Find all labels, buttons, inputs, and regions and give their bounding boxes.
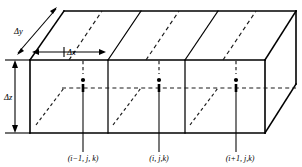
delta-x-label: Δx (66, 47, 76, 57)
label-node-i-plus-1: (i+1, j,k) (226, 154, 255, 163)
hidden-oblique-1 (36, 88, 64, 125)
hidden-oblique-3 (190, 88, 218, 125)
node-dot-i-minus-1 (81, 78, 85, 82)
delta-y-arrowhead-upper (50, 7, 57, 14)
node-dot-i-plus-1 (234, 78, 238, 82)
hidden-oblique-2 (113, 88, 141, 125)
delta-z-label: Δz (3, 92, 13, 102)
node-dot-i (157, 78, 161, 82)
node-group-3 (234, 78, 238, 152)
delta-z-arrowhead-top (12, 60, 18, 68)
figure-root: Δy Δx Δz (i−1, j, k) (i, j,k) (i+1, j,k) (0, 0, 302, 167)
delta-y-label: Δy (13, 26, 23, 36)
delta-z-arrowhead-bottom (12, 125, 18, 133)
front-face (30, 60, 265, 133)
label-node-i-minus-1: (i−1, j, k) (68, 154, 99, 163)
grid-cell-diagram: Δy Δx Δz (i−1, j, k) (i, j,k) (i+1, j,k) (0, 0, 302, 167)
delta-z-dimension: Δz (3, 60, 30, 133)
label-node-i: (i, j,k) (149, 154, 169, 163)
delta-y-arrowhead-lower (17, 48, 24, 55)
node-group-2 (157, 78, 161, 152)
hidden-back-edges (36, 61, 296, 125)
node-group-1 (81, 78, 85, 152)
right-bottom-oblique-edge (265, 84, 296, 133)
